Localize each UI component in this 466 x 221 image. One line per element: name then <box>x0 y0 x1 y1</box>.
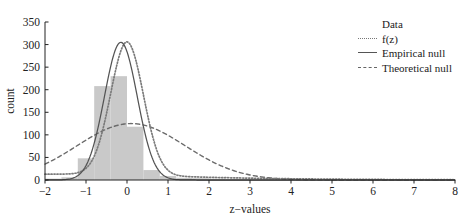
y-axis-title: count <box>4 87 16 113</box>
x-axis-tick-label: 4 <box>288 185 294 197</box>
x-axis-tick-label: 0 <box>124 185 130 197</box>
y-axis-tick-label: 150 <box>23 106 41 118</box>
legend-item-fz: f(z) <box>358 32 452 47</box>
legend-item-empirical-null: Empirical null <box>358 46 452 61</box>
legend-item-data: Data <box>358 17 452 32</box>
y-axis-tick-label: 350 <box>23 16 41 28</box>
x-axis-tick-label: 1 <box>165 185 171 197</box>
y-axis-tick-label: 250 <box>23 61 41 73</box>
x-axis-tick-label: 6 <box>370 185 376 197</box>
y-axis-tick-label: 100 <box>23 129 41 141</box>
legend-label-theoretical-null: Theoretical null <box>382 62 452 74</box>
y-axis-tick-label: 0 <box>34 174 40 186</box>
chart-legend: Data f(z) Empirical null Theoretical nul… <box>358 17 452 75</box>
y-axis-tick-label: 50 <box>29 151 41 163</box>
x-axis-tick-label: 2 <box>206 185 212 197</box>
legend-swatch-empirical-null <box>358 47 377 59</box>
histogram-bar <box>143 170 159 180</box>
x-axis-tick-label: −2 <box>39 185 51 197</box>
histogram-bar <box>127 127 143 180</box>
legend-label-data: Data <box>382 18 403 30</box>
x-axis-tick-label: 5 <box>329 185 335 197</box>
x-axis-tick-label: −1 <box>80 185 92 197</box>
figure-container: −2−1012345678050100150200250300350z−valu… <box>0 0 466 221</box>
x-axis-tick-label: 3 <box>247 185 253 197</box>
legend-label-fz: f(z) <box>382 33 398 45</box>
legend-item-theoretical-null: Theoretical null <box>358 61 452 76</box>
histogram-bar <box>111 76 127 180</box>
legend-swatch-fz <box>358 33 377 45</box>
y-axis-tick-label: 300 <box>23 39 41 51</box>
x-axis-tick-label: 8 <box>452 185 458 197</box>
x-axis-tick-label: 7 <box>411 185 417 197</box>
x-axis-title: z−values <box>230 203 271 215</box>
legend-label-empirical-null: Empirical null <box>382 47 445 59</box>
legend-swatch-data <box>358 18 377 30</box>
y-axis-tick-label: 200 <box>23 84 41 96</box>
legend-swatch-theoretical-null <box>358 62 377 74</box>
